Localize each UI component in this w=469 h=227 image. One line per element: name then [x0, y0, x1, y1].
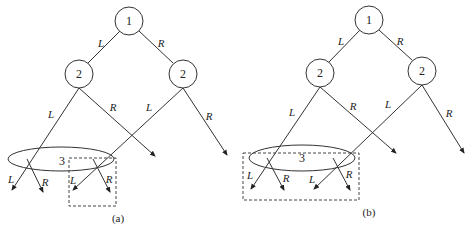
edge-left-L	[12, 88, 79, 190]
edge-label: R	[282, 172, 290, 184]
edge-label: R	[396, 35, 404, 47]
edge-left-R	[320, 87, 396, 153]
edge-label: L	[97, 37, 104, 49]
edge-label: R	[105, 173, 113, 185]
right-child-label: 2	[180, 67, 186, 81]
panel-b: L R L R L R L R L R 3 1 2 2 (b)	[243, 6, 464, 219]
edge-leaf	[27, 159, 43, 192]
edge-label: R	[109, 101, 117, 113]
information-set-label: 3	[59, 154, 65, 168]
edge-label: L	[7, 173, 14, 185]
edge-label: L	[69, 174, 76, 186]
edge-label: R	[157, 37, 165, 49]
edge-root-left	[329, 30, 360, 62]
edge-left-R	[79, 88, 155, 156]
edge-label: R	[349, 100, 357, 112]
root-node-label: 1	[366, 13, 372, 27]
edge-right-L	[314, 85, 422, 189]
edge-label: L	[246, 169, 253, 181]
edge-label: L	[384, 98, 391, 110]
edge-label: R	[345, 168, 353, 180]
left-child-label: 2	[76, 67, 82, 81]
edge-right-L	[73, 88, 183, 190]
edge-root-right	[139, 31, 173, 63]
edge-label: L	[47, 108, 54, 120]
root-node-label: 1	[126, 14, 132, 28]
edge-root-right	[379, 30, 412, 60]
edge-label: L	[288, 106, 295, 118]
edge-label: R	[205, 110, 213, 122]
edge-label: R	[41, 176, 49, 188]
edge-label: L	[145, 101, 152, 113]
edge-label: R	[445, 107, 453, 119]
panel-caption: (a)	[112, 212, 125, 225]
edge-leaf	[267, 158, 284, 190]
edge-right-R	[422, 85, 464, 153]
game-tree-figure: L R L R L R L R L R 3 1 2 2 (a)	[0, 0, 469, 227]
left-child-label: 2	[317, 66, 323, 80]
panel-a: L R L R L R L R L R 3 1 2 2 (a)	[7, 7, 227, 225]
edge-label: L	[308, 173, 315, 185]
edge-label: L	[337, 35, 344, 47]
panel-caption: (b)	[363, 206, 376, 219]
right-child-label: 2	[419, 64, 425, 78]
